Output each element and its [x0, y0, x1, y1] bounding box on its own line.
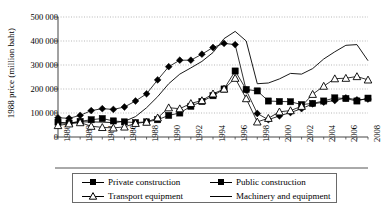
- square-marker-icon: [209, 176, 233, 188]
- data-point-marker: [320, 82, 328, 89]
- legend-item-machinery-and-equipment: Machinery and equipment: [209, 189, 330, 203]
- data-point-marker: [176, 57, 183, 64]
- data-point-marker: [165, 104, 173, 111]
- legend-label: Transport equipment: [108, 191, 183, 201]
- legend-label: Machinery and equipment: [236, 191, 330, 201]
- data-point-marker: [253, 118, 261, 125]
- legend-label: Private construction: [108, 177, 180, 187]
- data-point-marker: [353, 73, 361, 80]
- data-point-marker: [99, 115, 105, 121]
- data-point-marker: [343, 96, 349, 102]
- data-point-marker: [265, 98, 271, 104]
- data-point-marker: [243, 86, 249, 92]
- data-point-marker: [132, 98, 139, 105]
- diamond-marker-icon: [81, 176, 105, 188]
- data-point-marker: [310, 100, 316, 106]
- data-point-marker: [77, 112, 84, 119]
- data-point-marker: [187, 57, 194, 64]
- data-point-marker: [364, 76, 372, 83]
- data-point-marker: [287, 107, 295, 114]
- data-point-marker: [166, 112, 172, 118]
- data-point-marker: [99, 105, 106, 112]
- data-point-marker: [354, 98, 360, 104]
- legend-item-private-construction: Private construction: [81, 175, 209, 189]
- data-point-marker: [88, 107, 95, 114]
- data-point-marker: [232, 41, 239, 48]
- data-point-marker: [110, 118, 116, 124]
- data-point-marker: [321, 98, 327, 104]
- legend-label: Public construction: [236, 177, 306, 187]
- data-point-marker: [276, 98, 282, 104]
- data-point-marker: [232, 68, 238, 74]
- data-point-marker: [365, 95, 371, 101]
- data-point-marker: [287, 99, 293, 105]
- legend-item-public-construction: Public construction: [209, 175, 306, 189]
- data-point-marker: [110, 106, 117, 113]
- legend-item-transport-equipment: Transport equipment: [81, 189, 209, 203]
- data-point-marker: [121, 104, 128, 111]
- triangle-marker-icon: [81, 190, 105, 202]
- data-point-marker: [254, 88, 260, 94]
- data-point-marker: [309, 90, 317, 97]
- data-point-marker: [332, 95, 338, 101]
- line-marker-icon: [209, 190, 233, 202]
- chart-legend: Private construction Public construction…: [72, 173, 337, 203]
- data-point-marker: [87, 122, 95, 129]
- data-point-marker: [199, 51, 206, 58]
- data-point-marker: [254, 110, 261, 117]
